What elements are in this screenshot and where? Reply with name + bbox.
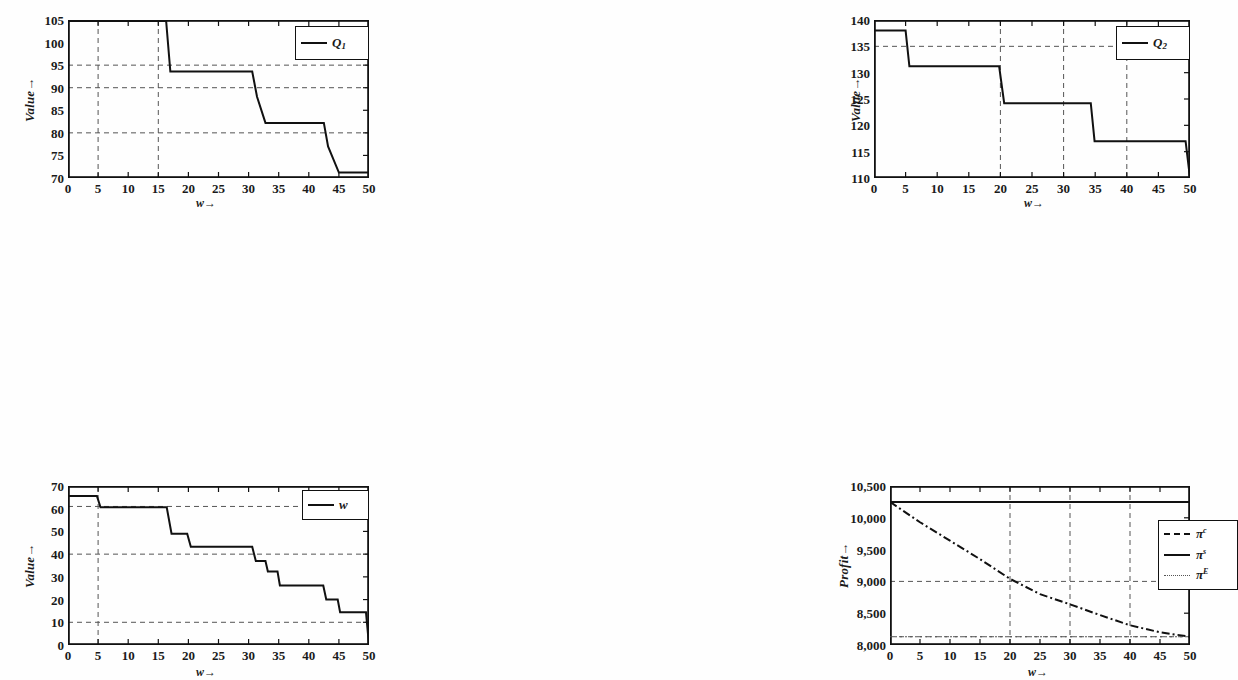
x-tick-label: 50 — [363, 182, 376, 195]
x-tick-label: 50 — [1184, 182, 1197, 195]
legend-item-pi-c[interactable]: πc — [1164, 525, 1232, 543]
subplot-w: Value→ w→ 010203040506070 05101520253035… — [0, 234, 416, 467]
y-tick-label: 70 — [6, 480, 64, 493]
y-tick-label: 9,000 — [828, 575, 886, 588]
subplot-profit: Profit→ w→ 8,0008,5009,0009,50010,00010,… — [416, 234, 832, 467]
legend-q1[interactable]: Q1 — [295, 26, 369, 60]
y-tick-label: 110 — [812, 172, 870, 185]
x-tick-label: 25 — [1026, 182, 1039, 195]
legend-profit[interactable]: πc πs πE — [1158, 520, 1238, 590]
x-tick-label: 10 — [931, 182, 944, 195]
x-tick-label: 45 — [1154, 649, 1167, 662]
y-tick-label: 130 — [812, 66, 870, 79]
subplot-q2: Value→ w→ 110115120125130135140 05101520… — [416, 0, 832, 234]
x-axis-label-profit: w→ — [1028, 665, 1048, 680]
x-tick-label: 5 — [95, 649, 102, 662]
y-tick-label: 140 — [812, 14, 870, 27]
x-tick-label: 35 — [1089, 182, 1102, 195]
x-tick-label: 35 — [272, 649, 285, 662]
x-tick-label: 50 — [1184, 649, 1197, 662]
y-tick-label: 95 — [6, 59, 64, 72]
x-tick-label: 10 — [122, 649, 135, 662]
x-tick-label: 10 — [122, 182, 135, 195]
x-tick-label: 10 — [944, 649, 957, 662]
legend-key-q2-line — [1122, 42, 1148, 44]
y-tick-label: 115 — [812, 145, 870, 158]
x-tick-label: 30 — [1057, 182, 1070, 195]
x-tick-label: 35 — [272, 182, 285, 195]
x-tick-label: 15 — [152, 649, 165, 662]
y-tick-label: 8,000 — [828, 639, 886, 652]
y-tick-label: 8,500 — [828, 607, 886, 620]
x-tick-label: 35 — [1094, 649, 1107, 662]
x-tick-label: 15 — [152, 182, 165, 195]
legend-key-q1-line — [301, 42, 327, 44]
legend-label-pi-e: πE — [1196, 567, 1208, 583]
y-tick-label: 10 — [6, 616, 64, 629]
plot-area-profit — [890, 486, 1190, 645]
x-tick-label: 30 — [1064, 649, 1077, 662]
y-tick-label: 75 — [6, 149, 64, 162]
y-tick-label: 10,000 — [828, 511, 886, 524]
y-tick-label: 70 — [6, 172, 64, 185]
x-axis-label-q2: w→ — [1024, 196, 1044, 211]
legend-item-pi-e[interactable]: πE — [1164, 567, 1232, 585]
x-tick-label: 5 — [917, 649, 924, 662]
x-tick-label: 20 — [994, 182, 1007, 195]
legend-item-pi-s[interactable]: πs — [1164, 546, 1232, 564]
series-pi_c — [890, 502, 1190, 637]
y-tick-label: 9,500 — [828, 543, 886, 556]
y-tick-label: 90 — [6, 81, 64, 94]
x-tick-label: 30 — [242, 649, 255, 662]
x-tick-label: 0 — [65, 182, 72, 195]
x-tick-label: 40 — [302, 649, 315, 662]
legend-label-q1: Q1 — [332, 35, 346, 51]
x-axis-label-w: w→ — [196, 665, 216, 680]
x-tick-label: 20 — [1004, 649, 1017, 662]
x-tick-label: 15 — [974, 649, 987, 662]
x-tick-label: 20 — [182, 182, 195, 195]
y-tick-label: 105 — [6, 14, 64, 27]
x-tick-label: 25 — [1034, 649, 1047, 662]
chart-svg-profit — [890, 486, 1190, 645]
x-tick-label: 25 — [212, 182, 225, 195]
y-tick-label: 40 — [6, 548, 64, 561]
legend-label-q2: Q2 — [1153, 35, 1167, 51]
y-tick-label: 120 — [812, 119, 870, 132]
x-tick-label: 5 — [902, 182, 909, 195]
y-tick-label: 80 — [6, 126, 64, 139]
x-tick-label: 20 — [182, 649, 195, 662]
legend-key-pi-e-line — [1164, 575, 1190, 576]
legend-key-pi-s-line — [1164, 554, 1190, 556]
legend-w[interactable]: w — [302, 490, 369, 520]
x-tick-label: 5 — [95, 182, 102, 195]
subplot-q1: Value→ w→ 707580859095100105 05101520253… — [0, 0, 416, 234]
y-tick-label: 10,500 — [828, 480, 886, 493]
x-tick-label: 40 — [1124, 649, 1137, 662]
legend-label-pi-s: πs — [1196, 547, 1206, 563]
x-tick-label: 25 — [212, 649, 225, 662]
x-tick-label: 45 — [332, 649, 345, 662]
y-tick-label: 125 — [812, 93, 870, 106]
legend-q2[interactable]: Q2 — [1116, 26, 1190, 60]
y-tick-label: 0 — [6, 639, 64, 652]
y-tick-label: 100 — [6, 36, 64, 49]
legend-label-w: w — [339, 497, 348, 513]
y-tick-label: 135 — [812, 40, 870, 53]
y-tick-label: 30 — [6, 570, 64, 583]
x-tick-label: 0 — [871, 182, 878, 195]
x-tick-label: 40 — [302, 182, 315, 195]
legend-key-pi-c-line — [1164, 533, 1190, 535]
x-tick-label: 40 — [1120, 182, 1133, 195]
y-tick-label: 85 — [6, 104, 64, 117]
legend-label-pi-c: πc — [1196, 526, 1207, 542]
legend-key-w-line — [308, 504, 334, 506]
x-tick-label: 45 — [1152, 182, 1165, 195]
x-tick-label: 0 — [65, 649, 72, 662]
y-tick-label: 60 — [6, 502, 64, 515]
y-tick-label: 50 — [6, 525, 64, 538]
y-tick-label: 20 — [6, 593, 64, 606]
x-tick-label: 15 — [962, 182, 975, 195]
x-tick-label: 50 — [363, 649, 376, 662]
